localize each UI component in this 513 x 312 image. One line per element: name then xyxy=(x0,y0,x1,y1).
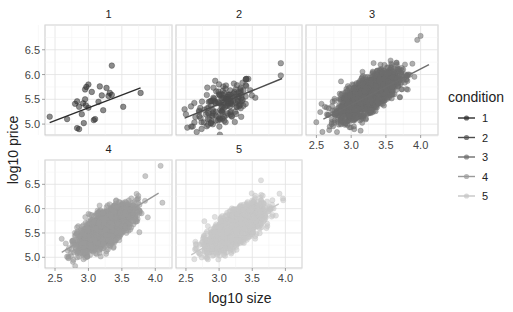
legend-label: 3 xyxy=(482,151,488,163)
x-axis-title: log10 size xyxy=(208,290,271,306)
legend-label: 1 xyxy=(482,112,488,124)
legend-item-2: 2 xyxy=(458,132,488,144)
panel-background xyxy=(45,25,172,135)
strip-label: 2 xyxy=(236,8,242,20)
legend-item-3: 3 xyxy=(458,151,488,163)
x-tick-label: 3.5 xyxy=(245,272,260,284)
y-tick-label: 5.0 xyxy=(25,251,40,263)
y-tick-label: 6.5 xyxy=(25,178,40,190)
legend-items: 12345 xyxy=(458,112,488,202)
x-tick-label: 3.5 xyxy=(114,272,129,284)
x-tick-label: 3.5 xyxy=(378,139,393,151)
x-tick-label: 4.0 xyxy=(413,139,428,151)
y-tick-label: 5.5 xyxy=(25,93,40,105)
y-tick-label: 6.5 xyxy=(25,44,40,56)
legend-item-1: 1 xyxy=(458,112,488,124)
facet-panel-2: 2 xyxy=(169,8,302,138)
facet-panel-5: 5 xyxy=(169,143,302,269)
faceted-scatter-chart: 12345 5.05.56.06.52.53.03.54.05.05.56.06… xyxy=(0,0,513,312)
y-tick-label: 5.0 xyxy=(25,118,40,130)
legend-label: 5 xyxy=(482,190,488,202)
x-tick-label: 4.0 xyxy=(148,272,163,284)
x-tick-label: 2.5 xyxy=(47,272,62,284)
legend-item-4: 4 xyxy=(458,171,488,183)
y-axis-title: log10 price xyxy=(5,116,21,185)
legend: condition 12345 xyxy=(448,89,504,202)
y-tick-label: 5.5 xyxy=(25,227,40,239)
x-tick-label: 3.0 xyxy=(344,139,359,151)
facet-panel-1: 1 xyxy=(38,8,172,136)
legend-title: condition xyxy=(448,89,504,105)
x-tick-label: 2.5 xyxy=(178,272,193,284)
strip-label: 1 xyxy=(105,8,111,20)
y-tick-label: 6.0 xyxy=(25,69,40,81)
x-tick-label: 3.0 xyxy=(211,272,226,284)
x-tick-label: 2.5 xyxy=(309,139,324,151)
strip-label: 4 xyxy=(105,143,111,155)
legend-label: 2 xyxy=(482,132,488,144)
facet-panel-4: 4 xyxy=(38,143,172,269)
strip-label: 3 xyxy=(369,8,375,20)
facet-panel-3: 3 xyxy=(299,8,438,136)
y-tick-label: 6.0 xyxy=(25,203,40,215)
legend-item-5: 5 xyxy=(458,190,488,202)
legend-label: 4 xyxy=(482,171,488,183)
x-tick-label: 3.0 xyxy=(81,272,96,284)
strip-label: 5 xyxy=(236,143,242,155)
x-tick-label: 4.0 xyxy=(278,272,293,284)
